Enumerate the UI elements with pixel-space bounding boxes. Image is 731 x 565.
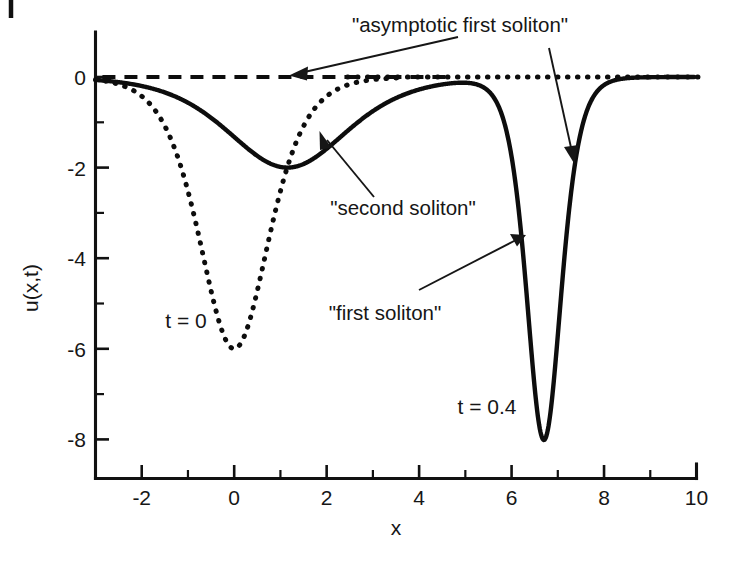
label-first-soliton: "first soliton" [329, 301, 442, 324]
tick-marks [96, 77, 697, 479]
curve-t-equals-0-4 [96, 77, 695, 440]
x-tick-label: 0 [228, 486, 240, 509]
plot-canvas: -202468100-2-4-6-8 x u(x,t) "asy [0, 0, 731, 565]
label-asymptotic-first-soliton: "asymptotic first soliton" [352, 13, 568, 36]
x-axis-title: x [391, 516, 402, 539]
label-t-final: t = 0.4 [458, 395, 517, 418]
leader-asymptotic-down [549, 48, 572, 152]
x-tick-label: 4 [413, 486, 425, 509]
y-tick-label: -2 [67, 157, 86, 180]
annotation-leaders [289, 37, 579, 290]
arrowhead-asymptotic-left [289, 67, 308, 81]
y-axis-title: u(x,t) [19, 264, 42, 312]
leader-second-soliton [327, 140, 374, 197]
leader-asymptotic-left [300, 37, 458, 73]
soliton-figure: -202468100-2-4-6-8 x u(x,t) "asy [0, 0, 731, 565]
x-tick-label: 2 [321, 486, 333, 509]
data-curves [96, 77, 699, 440]
leader-first-soliton [419, 240, 516, 290]
y-tick-label: 0 [74, 66, 86, 89]
y-tick-label: -6 [67, 338, 86, 361]
x-tick-label: -2 [132, 486, 151, 509]
tick-labels: -202468100-2-4-6-8 [67, 66, 708, 509]
x-tick-label: 8 [598, 486, 610, 509]
x-tick-label: 6 [506, 486, 518, 509]
label-t-initial: t = 0 [165, 309, 206, 332]
y-tick-label: -8 [67, 428, 86, 451]
y-tick-label: -4 [67, 247, 86, 270]
x-tick-label: 10 [685, 486, 708, 509]
label-second-soliton: "second soliton" [330, 196, 476, 219]
arrowhead-second-soliton [320, 131, 332, 150]
